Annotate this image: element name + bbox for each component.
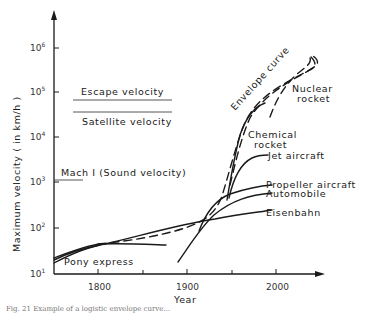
y-ticks bbox=[54, 48, 59, 228]
automobile-label: Automobile bbox=[266, 188, 326, 199]
propeller-curve bbox=[199, 185, 272, 231]
svg-text:102: 102 bbox=[30, 221, 45, 233]
eisenbahn-label: Eisenbahn bbox=[266, 207, 321, 218]
jet-aircraft-label: Jet aircraft bbox=[267, 150, 325, 161]
figure-caption: Fig. 21 Example of a logistic envelope c… bbox=[6, 305, 170, 313]
escape-velocity-label: Escape velocity bbox=[81, 86, 164, 97]
svg-text:105: 105 bbox=[30, 85, 45, 97]
y-tick-labels: 106 105 104 103 102 101 bbox=[30, 41, 45, 279]
nuclear-rocket-label-2: rocket bbox=[297, 93, 330, 104]
y-axis-arrow-icon bbox=[51, 10, 57, 20]
x-tick-2000: 2000 bbox=[266, 282, 289, 292]
pony-express-label: Pony express bbox=[64, 256, 134, 267]
chemical-rocket-label-2: rocket bbox=[254, 139, 287, 150]
satellite-velocity-label: Satellite velocity bbox=[82, 116, 172, 127]
mach-label: Mach I (Sound velocity) bbox=[61, 167, 186, 178]
jet-aircraft-curve bbox=[229, 155, 268, 198]
svg-text:106: 106 bbox=[30, 41, 45, 53]
x-ticks bbox=[98, 269, 276, 274]
svg-text:104: 104 bbox=[30, 130, 45, 142]
y-axis-label: Maximum velocity ( in km/h ) bbox=[11, 96, 22, 252]
svg-text:103: 103 bbox=[30, 175, 45, 187]
x-tick-1900: 1900 bbox=[176, 282, 199, 292]
x-axis-arrow-icon bbox=[315, 271, 325, 277]
x-tick-1800: 1800 bbox=[88, 282, 111, 292]
x-axis-label: Year bbox=[173, 294, 197, 305]
automobile-curve bbox=[178, 193, 272, 262]
velocity-chart: 106 105 104 103 102 101 1800 1900 2000 Y… bbox=[0, 0, 370, 315]
svg-text:101: 101 bbox=[30, 267, 45, 279]
